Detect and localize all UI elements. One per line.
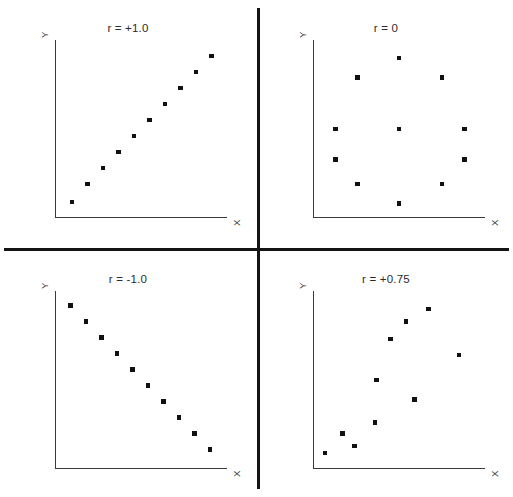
y-axis-line bbox=[55, 291, 56, 469]
data-point bbox=[352, 444, 357, 449]
data-point bbox=[68, 303, 73, 308]
data-point bbox=[130, 367, 135, 372]
data-point bbox=[440, 182, 445, 187]
data-point bbox=[192, 431, 197, 436]
plot-area bbox=[313, 40, 485, 218]
data-point bbox=[99, 335, 104, 340]
y-axis-label: Y bbox=[298, 283, 308, 289]
data-point bbox=[388, 337, 393, 342]
data-point bbox=[355, 182, 360, 187]
data-point bbox=[116, 150, 121, 155]
x-axis-line bbox=[313, 468, 485, 469]
y-axis-line bbox=[313, 40, 314, 218]
data-point bbox=[85, 182, 90, 187]
data-point bbox=[397, 56, 402, 61]
data-point bbox=[147, 118, 152, 123]
data-point bbox=[426, 307, 431, 312]
x-axis-label: X bbox=[490, 220, 500, 226]
data-point bbox=[163, 102, 168, 107]
data-point bbox=[462, 157, 467, 162]
plot-area bbox=[313, 291, 485, 469]
panel-r-plus-one: r = +1.0 Y X bbox=[0, 0, 256, 248]
data-point bbox=[209, 54, 214, 59]
x-axis-line bbox=[55, 217, 227, 218]
data-point bbox=[146, 383, 151, 388]
data-point bbox=[101, 166, 106, 171]
x-axis-label: X bbox=[232, 471, 242, 477]
data-point bbox=[373, 420, 378, 425]
data-point bbox=[208, 447, 213, 452]
data-point bbox=[177, 415, 182, 420]
data-point bbox=[374, 378, 379, 383]
data-point bbox=[178, 86, 183, 91]
y-axis-label: Y bbox=[40, 32, 50, 38]
data-point bbox=[115, 351, 120, 356]
x-axis-line bbox=[55, 468, 227, 469]
data-point bbox=[161, 399, 166, 404]
panel-r-minus-one: r = -1.0 Y X bbox=[0, 251, 256, 497]
y-axis-line bbox=[55, 40, 56, 218]
data-point bbox=[404, 319, 409, 324]
panel-r-zero: r = 0 Y X bbox=[258, 0, 513, 248]
data-point bbox=[340, 431, 345, 436]
data-point bbox=[323, 451, 328, 456]
plot-area bbox=[55, 40, 227, 218]
data-point bbox=[333, 157, 338, 162]
data-point bbox=[132, 134, 137, 139]
data-point bbox=[70, 200, 75, 205]
x-axis-label: X bbox=[232, 220, 242, 226]
data-point bbox=[355, 75, 360, 80]
y-axis-label: Y bbox=[40, 283, 50, 289]
data-point bbox=[397, 127, 402, 132]
y-axis-line bbox=[313, 291, 314, 469]
data-point bbox=[412, 397, 417, 402]
correlation-scatterplot-figure: r = +1.0 Y X r = 0 Y X r = -1.0 Y X r = … bbox=[0, 0, 513, 497]
data-point bbox=[84, 319, 89, 324]
panel-r-plus-point-seven-five: r = +0.75 Y X bbox=[258, 251, 513, 497]
x-axis-label: X bbox=[490, 471, 500, 477]
data-point bbox=[333, 127, 338, 132]
data-point bbox=[194, 70, 199, 75]
x-axis-line bbox=[313, 217, 485, 218]
plot-area bbox=[55, 291, 227, 469]
y-axis-label: Y bbox=[298, 32, 308, 38]
data-point bbox=[457, 353, 462, 358]
data-point bbox=[440, 75, 445, 80]
data-point bbox=[462, 127, 467, 132]
data-point bbox=[397, 201, 402, 206]
